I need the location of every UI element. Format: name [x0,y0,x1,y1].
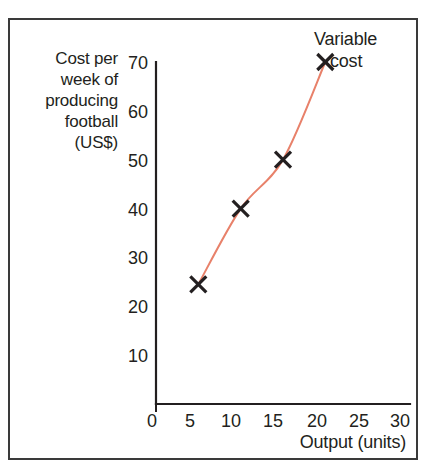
x-tick-label-25: 25 [349,411,369,431]
y-tick-label-60: 60 [128,102,148,122]
x-tick-label-5: 5 [185,411,195,431]
y-tick-label-10: 10 [128,346,148,366]
legend-label-line1: Variable [300,28,412,50]
chart-page: Cost per week of producing football (US$… [0,0,428,470]
data-point-marker-3 [275,152,291,168]
y-tick-label-40: 40 [128,200,148,220]
y-tick-label-20: 20 [128,297,148,317]
x-tick-label-30: 30 [390,411,410,431]
x-tick-label-10: 10 [221,411,241,431]
x-tick-label-15: 15 [263,411,283,431]
data-point-marker-2 [233,201,249,217]
y-tick-label-50: 50 [128,151,148,171]
variable-cost-curve [198,62,325,284]
legend: Variable cost [300,28,412,72]
legend-label-line2: cost [300,50,412,72]
data-point-marker-1 [190,276,206,292]
x-tick-label-0: 0 [147,411,157,431]
x-tick-label-20: 20 [307,411,327,431]
y-tick-label-30: 30 [128,248,148,268]
x-axis-title: Output (units) [170,432,406,453]
y-tick-label-70: 70 [128,53,148,73]
